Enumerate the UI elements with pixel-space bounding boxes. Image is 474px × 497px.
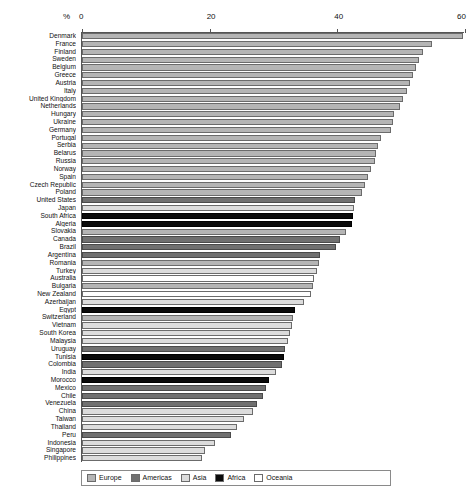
category-label: Switzerland [0,313,76,321]
category-label: United Kingdom [0,95,76,103]
bar-france [82,41,432,47]
bar-row: Algeria [0,220,474,228]
bar-mexico [82,385,266,391]
bar-row: United Kingdom [0,95,474,103]
category-label: Indonesia [0,439,76,447]
bar-row: Vietnam [0,321,474,329]
x-axis-tick-label: 40 [334,12,343,22]
category-label: Russia [0,157,76,165]
x-axis-tick-label: 0 [79,12,83,22]
bar-switzerland [82,315,293,321]
category-label: Taiwan [0,415,76,423]
category-label: New Zealand [0,290,76,298]
bar-row: Brazil [0,243,474,251]
bar-row: Singapore [0,446,474,454]
legend-entry-asia[interactable]: Asia [181,474,207,482]
bar-ukraine [82,119,393,125]
bar-row: Morocco [0,376,474,384]
legend-swatch-africa [215,474,224,482]
category-label: Czech Republic [0,181,76,189]
bar-netherlands [82,103,400,109]
category-label: Turkey [0,267,76,275]
bar-hungary [82,111,394,117]
bar-row: Egypt [0,306,474,314]
bar-row: Serbia [0,141,474,149]
category-label: South Africa [0,212,76,220]
bar-taiwan [82,416,244,422]
bar-colombia [82,361,282,367]
bar-row: Belarus [0,149,474,157]
bar-sweden [82,57,419,63]
bar-uruguay [82,346,285,352]
bar-row: Turkey [0,267,474,275]
bar-spain [82,174,368,180]
bar-row: Italy [0,87,474,95]
bar-greece [82,72,413,78]
category-label: Belgium [0,63,76,71]
category-label: Australia [0,274,76,282]
bar-china [82,408,253,414]
bar-row: New Zealand [0,290,474,298]
category-label: Colombia [0,360,76,368]
category-label: China [0,407,76,415]
bar-row: Belgium [0,63,474,71]
category-label: South Korea [0,329,76,337]
bar-serbia [82,143,378,149]
x-axis-header: % 0204060 [0,12,474,30]
bar-row: Malaysia [0,337,474,345]
category-label: United States [0,196,76,204]
category-label: Tunisia [0,353,76,361]
bar-russia [82,158,375,164]
bar-row: Peru [0,431,474,439]
bar-belarus [82,150,376,156]
bar-malaysia [82,338,288,344]
bar-row: Chile [0,392,474,400]
bar-row: Tunisia [0,353,474,361]
bar-row: France [0,40,474,48]
legend-entry-europe[interactable]: Europe [87,474,122,482]
category-label: Peru [0,431,76,439]
bar-row: Azerbaijan [0,298,474,306]
legend-label: Americas [143,474,172,482]
bar-row: Argentina [0,251,474,259]
bar-row: Japan [0,204,474,212]
bar-slovakia [82,229,346,235]
bar-argentina [82,252,320,258]
category-label: France [0,40,76,48]
bar-vietnam [82,322,292,328]
bar-row: Germany [0,126,474,134]
bar-belgium [82,64,416,70]
bar-tunisia [82,354,284,360]
category-label: Morocco [0,376,76,384]
category-label: Algeria [0,220,76,228]
bar-brazil [82,244,336,250]
legend-label: Oceania [266,474,292,482]
category-label: Argentina [0,251,76,259]
bar-turkey [82,268,317,274]
category-label: Azerbaijan [0,298,76,306]
bar-row: Poland [0,188,474,196]
category-label: Serbia [0,141,76,149]
category-label: Portugal [0,134,76,142]
bar-thailand [82,424,237,430]
x-axis-unit-label: % [56,12,70,22]
bar-portugal [82,135,381,141]
legend-entry-americas[interactable]: Americas [131,474,172,482]
bar-south-korea [82,330,290,336]
bar-row: Thailand [0,423,474,431]
bar-row: South Africa [0,212,474,220]
bar-austria [82,80,410,86]
category-label: Malaysia [0,337,76,345]
category-label: Japan [0,204,76,212]
bar-azerbaijan [82,299,304,305]
x-axis-tick-label: 60 [457,12,466,22]
category-label: Romania [0,259,76,267]
bar-chile [82,393,263,399]
legend-entry-africa[interactable]: Africa [215,474,245,482]
bar-norway [82,166,371,172]
category-label: Netherlands [0,102,76,110]
legend-label: Asia [193,474,207,482]
category-label: Slovakia [0,227,76,235]
bar-united-states [82,197,355,203]
legend-entry-oceania[interactable]: Oceania [254,474,292,482]
